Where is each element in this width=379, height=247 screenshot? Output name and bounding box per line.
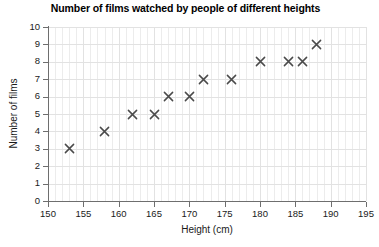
x-tick-label: 175 xyxy=(205,208,245,219)
x-tick-label: 155 xyxy=(63,208,103,219)
y-tick xyxy=(43,184,48,185)
grid-line-horizontal xyxy=(48,131,366,132)
y-axis-line xyxy=(48,26,49,202)
y-tick-label: 0 xyxy=(14,195,40,206)
x-axis-line xyxy=(48,201,366,202)
y-tick-label: 1 xyxy=(14,177,40,188)
data-point xyxy=(163,91,174,102)
grid-line-horizontal xyxy=(48,97,366,98)
data-point xyxy=(226,74,237,85)
data-point xyxy=(255,56,266,67)
x-tick-label: 160 xyxy=(99,208,139,219)
y-tick xyxy=(43,149,48,150)
data-point xyxy=(198,74,209,85)
y-tick xyxy=(43,62,48,63)
data-point xyxy=(149,109,160,120)
x-tick xyxy=(295,202,296,207)
x-tick-label: 195 xyxy=(346,208,379,219)
x-tick-label: 185 xyxy=(275,208,315,219)
y-tick xyxy=(43,27,48,28)
data-point xyxy=(99,126,110,137)
y-tick xyxy=(43,44,48,45)
y-tick xyxy=(43,131,48,132)
x-tick-label: 190 xyxy=(311,208,351,219)
chart-title: Number of films watched by people of dif… xyxy=(0,2,371,14)
grid-line-horizontal xyxy=(48,114,366,115)
y-tick xyxy=(43,114,48,115)
y-axis-title: Number of films xyxy=(8,54,19,174)
grid-line-horizontal xyxy=(48,27,366,28)
y-tick-label: 10 xyxy=(14,21,40,32)
grid-line-horizontal xyxy=(48,149,366,150)
x-tick xyxy=(366,202,367,207)
plot-area xyxy=(48,27,366,201)
grid-line-horizontal xyxy=(48,166,366,167)
x-tick xyxy=(48,202,49,207)
x-tick xyxy=(154,202,155,207)
y-tick-label: 9 xyxy=(14,38,40,49)
x-tick xyxy=(189,202,190,207)
data-point xyxy=(311,39,322,50)
x-tick xyxy=(260,202,261,207)
data-point xyxy=(127,109,138,120)
grid-line-horizontal xyxy=(48,62,366,63)
x-axis-title: Height (cm) xyxy=(48,224,366,235)
grid-line-vertical xyxy=(366,27,367,201)
x-tick xyxy=(225,202,226,207)
data-point xyxy=(297,56,308,67)
x-tick-label: 170 xyxy=(169,208,209,219)
x-tick xyxy=(331,202,332,207)
x-tick xyxy=(83,202,84,207)
x-tick-label: 180 xyxy=(240,208,280,219)
data-point xyxy=(64,143,75,154)
x-tick-label: 150 xyxy=(28,208,68,219)
x-tick xyxy=(119,202,120,207)
y-tick xyxy=(43,97,48,98)
grid-line-horizontal xyxy=(48,184,366,185)
x-tick-label: 165 xyxy=(134,208,174,219)
data-point xyxy=(184,91,195,102)
y-tick xyxy=(43,79,48,80)
data-point xyxy=(283,56,294,67)
y-tick xyxy=(43,166,48,167)
